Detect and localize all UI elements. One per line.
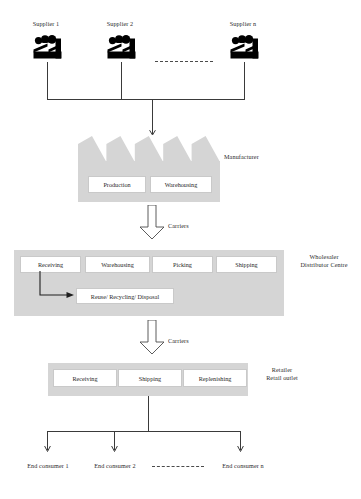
down-block-arrow-icon xyxy=(138,205,166,240)
wholesaler-label: Wholesaler Distributor Centre xyxy=(288,253,360,268)
wholesaler-box-shipping[interactable]: Shipping xyxy=(216,256,277,273)
manufacturer-box-warehousing[interactable]: Warehousing xyxy=(150,176,212,193)
manufacturer-box-production[interactable]: Production xyxy=(88,176,146,193)
consumer-1-arrow-icon xyxy=(41,431,54,453)
factory-icon xyxy=(101,33,141,63)
retailer-box-replenishing-label: Replenishing xyxy=(199,375,232,382)
retailer-label-line2: Retail outlet xyxy=(266,374,298,381)
retailer-box-replenishing[interactable]: Replenishing xyxy=(183,369,247,387)
supplier-1-connector xyxy=(47,62,48,99)
carriers-upper-label: Carriers xyxy=(168,222,189,230)
retailer-box-receiving-label: Receiving xyxy=(72,375,97,382)
consumer-n-arrow-icon xyxy=(234,431,247,453)
end-consumer-n-label: End consumer n xyxy=(210,462,276,470)
manufacturer-label: Manufacturer xyxy=(224,153,259,161)
wholesaler-box-warehousing-label: Warehousing xyxy=(101,261,134,268)
supplier-ellipsis-dashes xyxy=(155,61,213,62)
consumer-bus-line xyxy=(47,431,241,432)
supply-chain-diagram: Supplier 1 Supplier 2 Supplier n xyxy=(0,0,361,499)
retailer-label-line1: Retailer xyxy=(272,366,292,373)
wholesaler-box-warehousing[interactable]: Warehousing xyxy=(85,256,150,273)
wholesaler-box-picking[interactable]: Picking xyxy=(152,256,213,273)
factory-icon xyxy=(224,33,264,63)
retailer-box-shipping[interactable]: Shipping xyxy=(118,369,182,387)
manufacturer-box-production-label: Production xyxy=(103,181,130,188)
suppliers-to-manufacturer-arrow-icon xyxy=(146,124,159,136)
consumer-ellipsis-dashes xyxy=(152,466,204,467)
factory-icon xyxy=(27,33,67,63)
wholesaler-box-reuse-recycling-disposal-label: Reuse/ Recycling/ Disposal xyxy=(91,293,159,300)
supplier-1-label: Supplier 1 xyxy=(16,20,76,28)
reverse-logistics-arrow-icon xyxy=(38,271,76,299)
retailer-drop-line xyxy=(148,396,149,431)
retailer-box-shipping-label: Shipping xyxy=(139,375,161,382)
down-block-arrow-icon xyxy=(138,320,166,355)
consumer-2-arrow-icon xyxy=(108,431,121,453)
wholesaler-box-receiving-label: Receiving xyxy=(38,261,63,268)
manufacturer-sawtooth-roof xyxy=(78,136,220,162)
manufacturer-box-warehousing-label: Warehousing xyxy=(165,181,198,188)
supplier-2-connector xyxy=(121,62,122,99)
carriers-lower-label: Carriers xyxy=(168,337,189,345)
wholesaler-box-picking-label: Picking xyxy=(173,261,192,268)
end-consumer-2-label: End consumer 2 xyxy=(84,462,146,470)
wholesaler-label-line1: Wholesaler xyxy=(309,253,338,260)
supplier-bus-line xyxy=(47,99,245,100)
wholesaler-box-reuse-recycling-disposal[interactable]: Reuse/ Recycling/ Disposal xyxy=(76,288,174,304)
wholesaler-label-line2: Distributor Centre xyxy=(301,261,348,268)
retailer-box-receiving[interactable]: Receiving xyxy=(53,369,117,387)
supplier-n-label: Supplier n xyxy=(213,20,273,28)
retailer-label: Retailer Retail outlet xyxy=(252,366,312,381)
supplier-2-label: Supplier 2 xyxy=(90,20,150,28)
supplier-n-connector xyxy=(244,62,245,99)
wholesaler-box-shipping-label: Shipping xyxy=(235,261,257,268)
end-consumer-1-label: End consumer 1 xyxy=(17,462,79,470)
